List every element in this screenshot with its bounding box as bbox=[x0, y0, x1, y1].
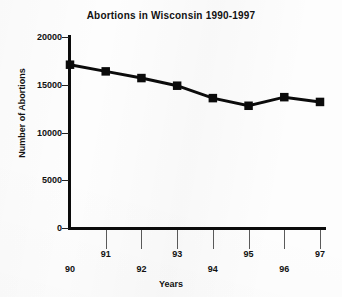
data-point-marker bbox=[66, 60, 75, 69]
chart-figure: Abortions in Wisconsin 1990-1997 0500010… bbox=[0, 0, 342, 297]
data-series-line bbox=[0, 0, 342, 297]
data-point-marker bbox=[173, 81, 182, 90]
data-point-marker bbox=[244, 102, 253, 111]
data-point-marker bbox=[316, 98, 325, 107]
data-point-marker bbox=[209, 94, 218, 103]
data-point-marker bbox=[137, 74, 146, 83]
data-point-marker bbox=[280, 93, 289, 102]
data-point-marker bbox=[101, 67, 110, 76]
